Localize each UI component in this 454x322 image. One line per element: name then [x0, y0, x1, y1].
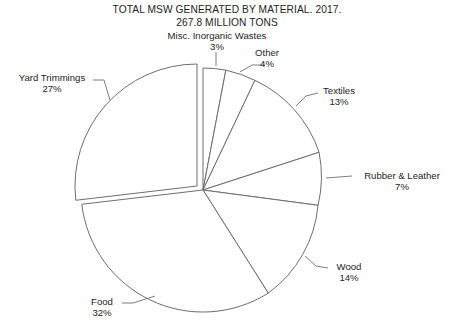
label-food: Food 32%	[82, 296, 122, 319]
pie-slices	[75, 64, 322, 312]
label-name-misc-inorganic-wastes: Misc. Inorganic Wastes	[152, 30, 282, 41]
leader-rubber-and-leather	[326, 176, 352, 178]
label-name-textiles: Textiles	[314, 85, 364, 96]
label-other: Other 4%	[246, 47, 288, 70]
label-wood: Wood 14%	[328, 261, 370, 284]
pie-chart-figure: TOTAL MSW GENERATED BY MATERIAL. 2017. 2…	[0, 0, 454, 322]
label-rubber-and-leather: Rubber & Leather 7%	[354, 170, 450, 193]
leader-wood	[305, 256, 328, 268]
label-name-yard-trimmings: Yard Trimmings	[10, 72, 94, 83]
label-pct-rubber-and-leather: 7%	[354, 181, 450, 192]
chart-title: TOTAL MSW GENERATED BY MATERIAL. 2017.	[0, 3, 454, 16]
label-textiles: Textiles 13%	[314, 85, 364, 108]
leader-yard-trimmings	[93, 80, 110, 100]
label-name-other: Other	[246, 47, 288, 58]
label-name-wood: Wood	[328, 261, 370, 272]
label-yard-trimmings: Yard Trimmings 27%	[10, 72, 94, 95]
chart-title-block: TOTAL MSW GENERATED BY MATERIAL. 2017. 2…	[0, 3, 454, 29]
chart-subtitle: 267.8 MILLION TONS	[0, 16, 454, 29]
label-name-food: Food	[82, 296, 122, 307]
label-pct-other: 4%	[246, 58, 288, 69]
label-pct-textiles: 13%	[314, 96, 364, 107]
label-pct-yard-trimmings: 27%	[10, 83, 94, 94]
label-pct-food: 32%	[82, 307, 122, 318]
label-name-rubber-and-leather: Rubber & Leather	[354, 170, 450, 181]
label-pct-wood: 14%	[328, 272, 370, 283]
